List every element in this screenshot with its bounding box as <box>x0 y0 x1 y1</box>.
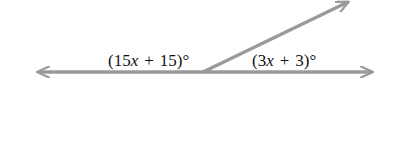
left-angle-label: (15x+15)° <box>108 51 189 70</box>
angle-ray <box>203 2 348 72</box>
angle-diagram: (15x+15)° (3x+3)° <box>0 0 395 153</box>
right-angle-label: (3x+3)° <box>252 51 316 70</box>
